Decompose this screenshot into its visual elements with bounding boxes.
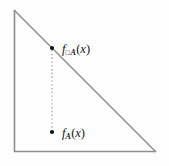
lower-label-close-paren: ) xyxy=(81,126,85,140)
triangle-diagram-figure: f□A(x) fA(x) xyxy=(0,0,169,166)
upper-point-marker xyxy=(50,46,54,50)
upper-point-label: f□A(x) xyxy=(62,40,90,57)
lower-point-label: fA(x) xyxy=(62,124,85,141)
upper-label-subscript: □A xyxy=(65,48,76,57)
upper-label-close-paren: ) xyxy=(86,42,90,56)
lower-point-marker xyxy=(50,130,54,134)
